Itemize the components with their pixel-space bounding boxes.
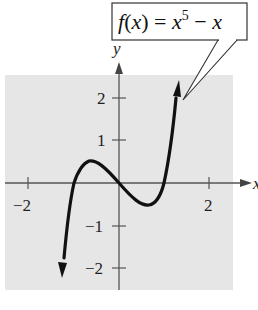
x-tick-label: 2: [204, 196, 213, 215]
chart: x y −2 2 2 1 −1 −2 f(x) = x5 − x: [0, 0, 258, 310]
function-label: f(x) = x5 − x: [118, 8, 222, 34]
y-tick-label: −1: [85, 217, 103, 236]
y-tick-label: 2: [97, 89, 106, 108]
y-tick-label: −2: [85, 259, 103, 278]
x-tick-label: −2: [13, 196, 31, 215]
y-axis-arrow-icon: [115, 62, 123, 74]
x-axis-label: x: [252, 174, 258, 193]
x-axis-arrow-icon: [240, 179, 252, 187]
y-axis-label: y: [111, 39, 121, 58]
y-tick-label: 1: [97, 131, 106, 150]
